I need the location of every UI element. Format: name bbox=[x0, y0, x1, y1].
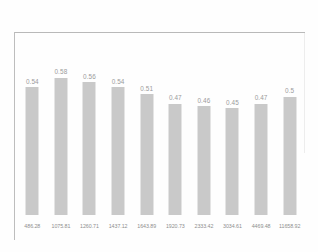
bar-value-label: 0.56 bbox=[83, 73, 96, 80]
chart-frame-left-border bbox=[14, 32, 15, 240]
bar-value-label: 0.47 bbox=[255, 94, 268, 101]
bar bbox=[26, 87, 39, 215]
x-axis-tick-label: 486.28 bbox=[24, 223, 40, 229]
bar-value-label: 0.46 bbox=[197, 97, 210, 104]
bar-group: 0.453034.61 bbox=[218, 36, 247, 236]
bar-group: 0.511643.89 bbox=[132, 36, 161, 236]
x-axis-tick-label: 1920.73 bbox=[166, 223, 185, 229]
x-axis-tick-label: 3034.61 bbox=[223, 223, 242, 229]
plot-area: 0.54486.280.581075.810.561260.710.541437… bbox=[18, 36, 304, 236]
x-axis-tick-label: 1075.81 bbox=[51, 223, 70, 229]
bar bbox=[226, 108, 239, 215]
bar-value-label: 0.5 bbox=[285, 87, 294, 94]
x-axis-tick-label: 1643.89 bbox=[137, 223, 156, 229]
bar-value-label: 0.47 bbox=[169, 94, 182, 101]
bar-chart-figure: 0.54486.280.581075.810.561260.710.541437… bbox=[0, 0, 318, 252]
bar-group: 0.581075.81 bbox=[47, 36, 76, 236]
bar-value-label: 0.54 bbox=[26, 78, 39, 85]
bar bbox=[283, 97, 296, 215]
bar bbox=[140, 94, 153, 215]
bar bbox=[83, 82, 96, 215]
bar-group: 0.474469.48 bbox=[247, 36, 276, 236]
bar-value-label: 0.54 bbox=[112, 78, 125, 85]
bar-group: 0.471920.73 bbox=[161, 36, 190, 236]
bar bbox=[112, 87, 125, 215]
x-axis-tick-label: 2333.42 bbox=[194, 223, 213, 229]
x-axis-tick-label: 1260.71 bbox=[80, 223, 99, 229]
bar-group: 0.511658.92 bbox=[275, 36, 304, 236]
chart-frame-right-border bbox=[304, 33, 305, 153]
bar-group: 0.462333.42 bbox=[190, 36, 219, 236]
bar bbox=[54, 78, 67, 215]
bar-group: 0.54486.28 bbox=[18, 36, 47, 236]
bar-value-label: 0.51 bbox=[140, 85, 153, 92]
x-axis-tick-label: 4469.48 bbox=[252, 223, 271, 229]
bar-group: 0.561260.71 bbox=[75, 36, 104, 236]
bar bbox=[255, 104, 268, 215]
bar-value-label: 0.58 bbox=[54, 68, 67, 75]
chart-frame-top-border bbox=[14, 32, 305, 33]
x-axis-tick-label: 1437.12 bbox=[109, 223, 128, 229]
bar bbox=[169, 104, 182, 215]
bar-group: 0.541437.12 bbox=[104, 36, 133, 236]
bar bbox=[197, 106, 210, 215]
bar-value-label: 0.45 bbox=[226, 99, 239, 106]
x-axis-tick-label: 11658.92 bbox=[279, 223, 300, 229]
